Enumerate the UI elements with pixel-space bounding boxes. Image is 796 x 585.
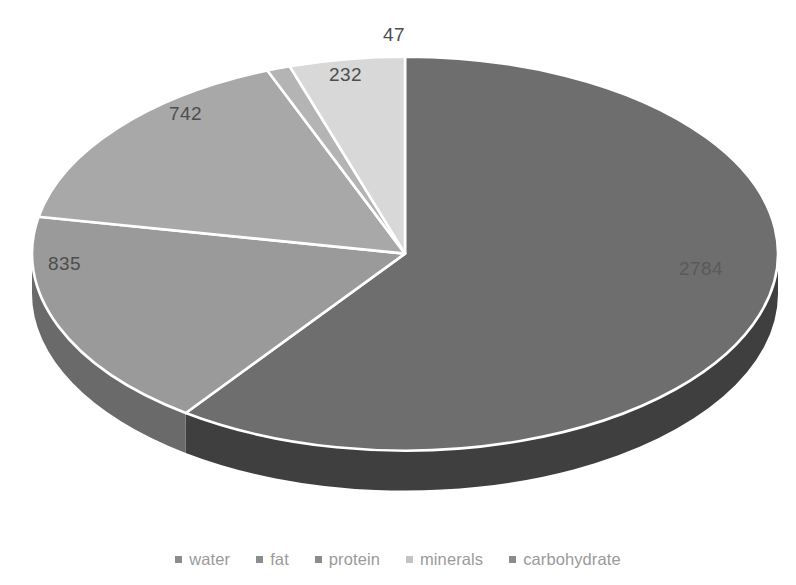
pie-top-face (32, 57, 778, 451)
legend-item-minerals[interactable]: minerals (406, 550, 483, 569)
pie-chart-graphic (0, 0, 796, 585)
legend-marker-icon-protein (315, 556, 322, 563)
legend-item-water[interactable]: water (175, 550, 230, 569)
legend-label-fat: fat (270, 550, 289, 569)
pie-chart-container: 2784 835 742 47 232 water fat protein mi… (0, 0, 796, 585)
data-label-minerals: 47 (383, 24, 405, 46)
legend-label-protein: protein (329, 550, 380, 569)
legend-item-protein[interactable]: protein (315, 550, 380, 569)
legend-marker-icon-carbohydrate (509, 556, 516, 563)
legend-item-carbohydrate[interactable]: carbohydrate (509, 550, 621, 569)
chart-legend: water fat protein minerals carbohydrate (0, 550, 796, 569)
data-label-carbohydrate: 232 (329, 64, 362, 86)
legend-label-minerals: minerals (420, 550, 483, 569)
data-label-water: 2784 (679, 258, 723, 280)
legend-label-carbohydrate: carbohydrate (523, 550, 621, 569)
legend-marker-icon-minerals (406, 556, 413, 563)
legend-marker-icon-fat (256, 556, 263, 563)
data-label-protein: 742 (169, 103, 202, 125)
legend-label-water: water (189, 550, 230, 569)
data-label-fat: 835 (48, 253, 81, 275)
legend-marker-icon-water (175, 556, 182, 563)
legend-item-fat[interactable]: fat (256, 550, 289, 569)
